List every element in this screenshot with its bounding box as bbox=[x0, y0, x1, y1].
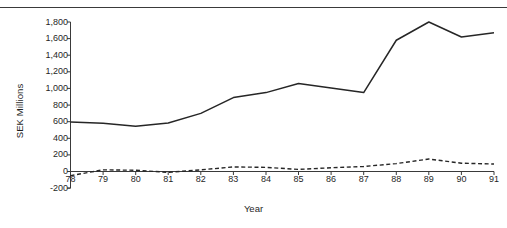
data-series-group bbox=[71, 22, 495, 176]
axis-lines bbox=[67, 22, 494, 188]
chart-figure: SEK Millions Year 1,8001,6001,4001,2001,… bbox=[0, 0, 507, 228]
series-line-solid-series bbox=[71, 22, 495, 126]
series-line-dashed-series bbox=[71, 159, 495, 176]
x-axis-ticks bbox=[71, 172, 495, 176]
y-axis-ticks bbox=[67, 22, 71, 188]
plot-area bbox=[0, 0, 507, 228]
